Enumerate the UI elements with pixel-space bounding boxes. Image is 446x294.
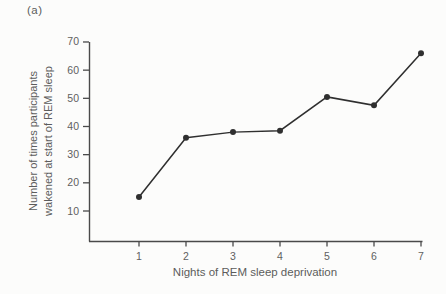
- y-tick-label: 30: [67, 148, 79, 160]
- y-tick-label: 10: [67, 205, 79, 217]
- x-tick-label: 7: [418, 250, 424, 262]
- line-chart: 102030405060701234567: [0, 0, 446, 294]
- x-tick-label: 1: [136, 250, 142, 262]
- x-tick-label: 4: [277, 250, 283, 262]
- y-tick-label: 50: [67, 92, 79, 104]
- y-tick-label: 20: [67, 176, 79, 188]
- data-line: [139, 53, 421, 197]
- x-axis-title: Nights of REM sleep deprivation: [120, 266, 390, 278]
- data-point: [418, 50, 424, 56]
- data-point: [183, 135, 189, 141]
- data-point: [324, 94, 330, 100]
- figure-panel: (a) Number of times participants wakened…: [0, 0, 446, 294]
- y-tick-label: 40: [67, 120, 79, 132]
- data-point: [136, 194, 142, 200]
- data-point: [277, 128, 283, 134]
- y-tick-label: 70: [67, 35, 79, 47]
- x-tick-label: 3: [230, 250, 236, 262]
- x-tick-label: 2: [183, 250, 189, 262]
- x-tick-label: 6: [371, 250, 377, 262]
- x-tick-label: 5: [324, 250, 330, 262]
- y-tick-label: 60: [67, 64, 79, 76]
- data-point: [230, 129, 236, 135]
- data-point: [371, 102, 377, 108]
